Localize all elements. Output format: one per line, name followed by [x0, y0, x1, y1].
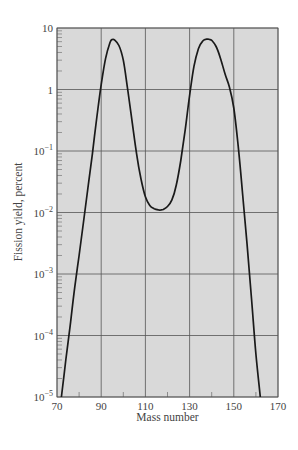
y-tick-label: 1: [48, 84, 54, 96]
x-axis-title: Mass number: [136, 411, 198, 423]
x-tick-label: 150: [226, 400, 243, 412]
x-tick-label: 70: [52, 400, 64, 412]
y-tick-label: 10−4: [33, 328, 53, 342]
y-tick-label: 10−1: [33, 143, 53, 157]
y-axis-tick-labels: 10110−110−210−310−410−5: [33, 22, 53, 403]
fission-yield-chart: 10110−110−210−310−410−5 7090110130150170…: [0, 0, 298, 450]
y-tick-label: 10−3: [33, 266, 53, 280]
y-axis-title: Fission yield, percent: [12, 162, 25, 261]
y-tick-label: 10: [42, 22, 54, 34]
x-tick-label: 170: [270, 400, 287, 412]
y-tick-label: 10−2: [33, 205, 53, 219]
x-tick-label: 90: [96, 400, 108, 412]
y-tick-label: 10−5: [33, 389, 53, 403]
